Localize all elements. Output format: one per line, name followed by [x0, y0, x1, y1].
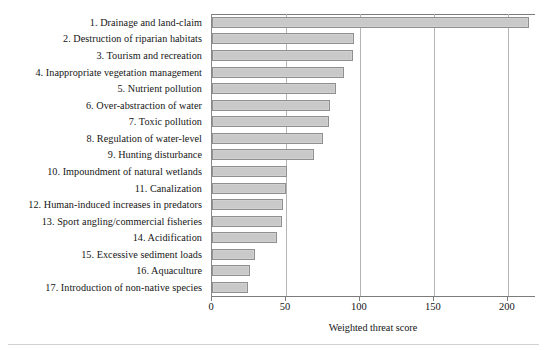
bar: [212, 216, 282, 227]
bar-row: [212, 113, 535, 130]
plot-area: [211, 14, 535, 296]
category-label: 4. Inappropriate vegetation management: [35, 67, 202, 78]
bar-row: [212, 196, 535, 213]
category-label-row: 8. Regulation of water-level: [0, 130, 207, 147]
bar-row: [212, 230, 535, 247]
category-label: 5. Nutrient pollution: [117, 83, 202, 94]
category-label: 10. Impoundment of natural wetlands: [47, 166, 202, 177]
category-label-row: 11. Canalization: [0, 180, 207, 197]
category-label: 3. Tourism and recreation: [96, 50, 202, 61]
category-label-row: 12. Human-induced increases in predators: [0, 196, 207, 213]
bar-row: [212, 213, 535, 230]
x-axis-line: [211, 296, 535, 297]
category-label-row: 2. Destruction of riparian habitats: [0, 31, 207, 48]
figure-bottom-rule: [8, 344, 539, 345]
bar: [212, 67, 344, 78]
bar-row: [212, 163, 535, 180]
bar: [212, 17, 529, 28]
category-label-row: 16. Aquaculture: [0, 263, 207, 280]
category-label-row: 4. Inappropriate vegetation management: [0, 64, 207, 81]
bar-row: [212, 263, 535, 280]
bar-row: [212, 31, 535, 48]
bar-row: [212, 97, 535, 114]
bar: [212, 100, 330, 111]
bar-row: [212, 14, 535, 31]
category-label: 12. Human-induced increases in predators: [28, 199, 202, 210]
bar-series: [212, 14, 535, 296]
bar: [212, 33, 354, 44]
category-label: 11. Canalization: [135, 183, 202, 194]
category-label-row: 17. Introduction of non-native species: [0, 279, 207, 296]
bar: [212, 265, 250, 276]
x-axis-title: Weighted threat score: [211, 322, 535, 333]
bar: [212, 199, 283, 210]
bar-row: [212, 130, 535, 147]
category-label: 7. Toxic pollution: [129, 116, 202, 127]
category-label-row: 1. Drainage and land-claim: [0, 14, 207, 31]
category-label-row: 14. Acidification: [0, 230, 207, 247]
category-label-row: 3. Tourism and recreation: [0, 47, 207, 64]
bar-row: [212, 64, 535, 81]
category-label-row: 10. Impoundment of natural wetlands: [0, 163, 207, 180]
bar: [212, 133, 323, 144]
category-label: 9. Hunting disturbance: [108, 149, 202, 160]
category-label-row: 6. Over-abstraction of water: [0, 97, 207, 114]
category-axis-labels: 1. Drainage and land-claim2. Destruction…: [0, 14, 207, 296]
bar-row: [212, 180, 535, 197]
category-label-row: 9. Hunting disturbance: [0, 147, 207, 164]
category-label: 13. Sport angling/commercial fisheries: [42, 216, 202, 227]
x-tick-label: 150: [425, 301, 441, 313]
category-label: 14. Acidification: [133, 232, 202, 243]
bar-row: [212, 80, 535, 97]
bar: [212, 149, 314, 160]
category-label: 15. Excessive sediment loads: [81, 249, 202, 260]
bar: [212, 166, 287, 177]
x-tick-label: 100: [351, 301, 367, 313]
bar: [212, 282, 248, 293]
bar-row: [212, 147, 535, 164]
category-label: 17. Introduction of non-native species: [45, 282, 202, 293]
bar: [212, 116, 329, 127]
category-label: 6. Over-abstraction of water: [86, 100, 202, 111]
bar: [212, 232, 277, 243]
x-tick-label: 50: [280, 301, 291, 313]
bar: [212, 50, 353, 61]
bar: [212, 249, 255, 260]
chart-plot-wrapper: 1. Drainage and land-claim2. Destruction…: [0, 0, 547, 310]
x-tick-label: 0: [208, 301, 213, 313]
bar: [212, 183, 286, 194]
category-label: 1. Drainage and land-claim: [90, 17, 202, 28]
x-tick-label: 200: [499, 301, 515, 313]
bar-row: [212, 279, 535, 296]
category-label: 2. Destruction of riparian habitats: [63, 33, 202, 44]
category-label-row: 7. Toxic pollution: [0, 113, 207, 130]
bar: [212, 83, 336, 94]
category-label: 16. Aquaculture: [136, 265, 202, 276]
category-label-row: 15. Excessive sediment loads: [0, 246, 207, 263]
category-label: 8. Regulation of water-level: [87, 133, 202, 144]
bar-row: [212, 47, 535, 64]
bar-row: [212, 246, 535, 263]
category-label-row: 13. Sport angling/commercial fisheries: [0, 213, 207, 230]
category-label-row: 5. Nutrient pollution: [0, 80, 207, 97]
threat-score-bar-chart-figure: 1. Drainage and land-claim2. Destruction…: [0, 0, 547, 351]
